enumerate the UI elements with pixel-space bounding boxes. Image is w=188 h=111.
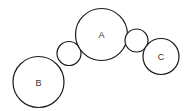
node-b: B [13,57,64,108]
node-c: C [143,39,179,75]
label-a: A [98,30,104,40]
node-a: A [76,9,128,61]
label-b: B [35,78,41,88]
circle-diagram: B A C [0,0,188,111]
label-c: C [158,52,165,62]
